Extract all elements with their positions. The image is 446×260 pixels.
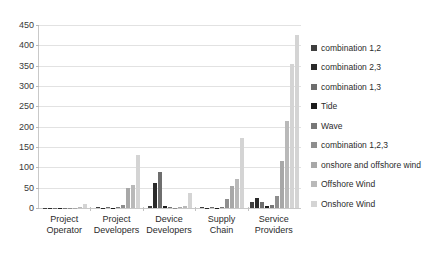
bar-group (196, 25, 248, 208)
x-category-label-line: Developers (90, 225, 142, 236)
bar[interactable] (106, 207, 110, 208)
bar[interactable] (121, 205, 125, 208)
bar[interactable] (205, 208, 209, 209)
bar[interactable] (131, 185, 135, 208)
legend-label: Wave (321, 121, 342, 131)
bar[interactable] (78, 207, 82, 208)
bar[interactable] (163, 206, 167, 208)
bar[interactable] (73, 208, 77, 209)
bar[interactable] (153, 183, 157, 208)
bar[interactable] (255, 198, 259, 208)
bar[interactable] (280, 161, 284, 208)
bar[interactable] (136, 155, 140, 208)
legend-label: combination 1,2,3 (321, 140, 388, 150)
x-category-label: ProjectOperator (38, 211, 90, 245)
bar[interactable] (178, 207, 182, 208)
bar[interactable] (290, 64, 294, 208)
legend-item[interactable]: combination 1,3 (311, 77, 446, 97)
bar[interactable] (240, 138, 244, 208)
bar[interactable] (148, 206, 152, 208)
legend-color-swatch (311, 84, 317, 90)
y-tick-label: 350 (0, 62, 34, 71)
plot-area (38, 25, 301, 209)
bar[interactable] (200, 207, 204, 208)
x-category-label: SupplyChain (195, 211, 247, 245)
bar[interactable] (173, 208, 177, 209)
legend-color-swatch (311, 64, 317, 70)
bar[interactable] (83, 204, 87, 208)
x-axis-category-labels: ProjectOperatorProjectDevelopersDeviceDe… (38, 211, 300, 245)
bar[interactable] (235, 179, 239, 208)
bar-group (39, 25, 91, 208)
bar[interactable] (126, 188, 130, 208)
x-category-label: ServiceProviders (248, 211, 300, 245)
bar[interactable] (270, 205, 274, 208)
x-category-label-line: Providers (248, 225, 300, 236)
bar[interactable] (188, 193, 192, 208)
x-category-label-line: Device (143, 214, 195, 225)
legend-label: combination 1,3 (321, 82, 381, 92)
y-tick-label: 50 (0, 184, 34, 193)
legend-label: Tide (321, 101, 337, 111)
legend-item[interactable]: onshore and offshore wind (311, 155, 446, 175)
bar[interactable] (63, 208, 67, 209)
bar[interactable] (43, 208, 47, 209)
legend-color-swatch (311, 142, 317, 148)
legend-color-swatch (311, 123, 317, 129)
bar[interactable] (210, 207, 214, 208)
y-tick-label: 200 (0, 123, 34, 132)
bar[interactable] (225, 199, 229, 208)
x-category-label-line: Supply (195, 214, 247, 225)
legend-label: onshore and offshore wind (321, 160, 421, 170)
legend-item[interactable]: combination 1,2 (311, 38, 446, 58)
bar-groups (39, 25, 301, 208)
legend-color-swatch (311, 45, 317, 51)
bar[interactable] (101, 208, 105, 209)
bar[interactable] (260, 202, 264, 208)
bar[interactable] (53, 208, 57, 209)
chart-legend: combination 1,2combination 2,3combinatio… (311, 38, 446, 214)
x-category-label-line: Developers (143, 225, 195, 236)
legend-color-swatch (311, 103, 317, 109)
legend-color-swatch (311, 162, 317, 168)
legend-item[interactable]: combination 2,3 (311, 58, 446, 78)
y-axis-tick-labels: 450400350300250200150100500 (0, 0, 34, 215)
bar[interactable] (265, 206, 269, 208)
bar[interactable] (58, 208, 62, 209)
bar[interactable] (48, 208, 52, 209)
x-category-label-line: Project (38, 214, 90, 225)
bar[interactable] (68, 208, 72, 209)
bar[interactable] (250, 202, 254, 209)
legend-item[interactable]: Wave (311, 116, 446, 136)
bar[interactable] (275, 196, 279, 208)
legend-label: combination 2,3 (321, 62, 381, 72)
bar-group (249, 25, 301, 208)
legend-color-swatch (311, 201, 317, 207)
bar[interactable] (215, 208, 219, 209)
legend-item[interactable]: Onshore Wind (311, 194, 446, 214)
bar[interactable] (220, 207, 224, 208)
bar[interactable] (111, 208, 115, 209)
bar-group (144, 25, 196, 208)
bar[interactable] (168, 207, 172, 208)
bar[interactable] (230, 186, 234, 208)
chart-container: 450400350300250200150100500 ProjectOpera… (0, 0, 446, 260)
legend-label: combination 1,2 (321, 43, 381, 53)
legend-item[interactable]: Tide (311, 97, 446, 117)
legend-color-swatch (311, 181, 317, 187)
x-category-label-line: Operator (38, 225, 90, 236)
legend-label: Offshore Wind (321, 179, 375, 189)
bar-group (91, 25, 143, 208)
bar[interactable] (183, 206, 187, 208)
y-tick-label: 150 (0, 143, 34, 152)
bar[interactable] (116, 207, 120, 208)
bar[interactable] (285, 121, 289, 208)
y-tick-label: 0 (0, 204, 34, 213)
y-tick-mark (36, 208, 39, 209)
y-tick-label: 450 (0, 21, 34, 30)
legend-item[interactable]: Offshore Wind (311, 175, 446, 195)
bar[interactable] (96, 207, 100, 208)
bar[interactable] (158, 172, 162, 208)
legend-item[interactable]: combination 1,2,3 (311, 136, 446, 156)
bar[interactable] (295, 35, 299, 208)
